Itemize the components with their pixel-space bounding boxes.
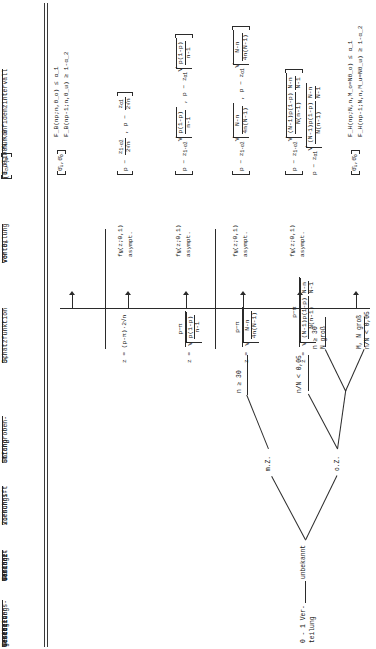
- tree-edge-c3-upper: [325, 349, 346, 391]
- tree-draw-label-oz: o.Z.: [334, 456, 342, 471]
- hdr-line: θu,θ̂o für θ: [2, 130, 3, 179]
- row6-confidence-interval: θ̂u,θ̂o: [352, 150, 359, 175]
- tree-edge-mz-c1: [246, 395, 269, 449]
- row5-distribution-note: asympt.: [300, 231, 307, 257]
- row1-ci-bracket: θ̂u,θ̂o: [58, 150, 65, 175]
- tree-edge-oz-c2: [308, 394, 338, 449]
- header-rule-bottom: [47, 3, 48, 647]
- row3-distribution-fn: fN(z;0,1): [176, 225, 183, 257]
- row2-distribution-note: asympt.: [128, 231, 135, 257]
- row4-confidence-interval: p − z1-α2N-n4n(N-1) , p − zα1N-n4n(N-1): [233, 26, 249, 175]
- row1-ci-condition-1: F_B(np;n,θ_o) ≤ α_1: [54, 66, 61, 137]
- tree-edge-root-variance: [305, 581, 306, 603]
- tree-condition-label-c3-line2: N groß: [320, 326, 328, 349]
- row5-confidence-interval-lower: p − zα1(N-1)p(1-p)N(n-1)N-nN-1: [306, 83, 322, 175]
- arrow-head-row3: [183, 291, 189, 295]
- row4-ci-bracket: p − z1-α2N-n4n(N-1) , p − zα1N-n4n(N-1): [233, 26, 249, 175]
- row1-ci-condition-2: F_B(np-1;n,θ_u) ≥ 1-α_2: [64, 52, 71, 137]
- tree-edge-variance-oz: [305, 475, 337, 540]
- tree-edge-oz-c3: [337, 390, 346, 450]
- row2-ci-bracket: p − z1-α22√n , p − zα12√n: [118, 92, 132, 175]
- row1-confidence-interval: θ̂u,θ̂o: [58, 150, 65, 175]
- row-leader-1: [72, 293, 73, 309]
- tree-edge-variance-mz: [271, 476, 306, 540]
- row3-estimator: z = p−πp(1-p)n-1: [178, 310, 202, 363]
- row5-ci-bracket: p − z1-α2(N-1)p(1-p)N(n-1)N-nN-1: [286, 69, 302, 175]
- row4-estimator: z = p−πN-n4n(N-1): [235, 306, 259, 363]
- rotated-sheet: Verteilungs- gesetz der Grundge- samthei…: [0, 0, 376, 649]
- hdr-line: Dt: [2, 356, 3, 363]
- arrow-head-row2: [125, 291, 131, 295]
- estimator-group-rule-mid: [215, 229, 216, 349]
- row-leader-2: [128, 293, 129, 309]
- column-header-band: Verteilungs- gesetz der Grundge- samthei…: [0, 0, 46, 649]
- row2-estimator: z = (p-π)·2√n: [122, 315, 129, 363]
- row4-distribution-fn: fN(z;0,1): [233, 225, 240, 257]
- estimator-group-rule-top: [105, 229, 106, 349]
- arrow-head-row6: [353, 291, 359, 295]
- tree-root-label-line1: 0 - 1 Ver-: [300, 605, 308, 643]
- header-rule-top: [44, 3, 45, 647]
- row3-ci-bracket: p − z1-α2p(1-p)n-1 , p − zα1p(1-p)n-1: [176, 34, 192, 175]
- row6-ci-condition-1: F_H(np;N,n,M_o=Nθ_o) ≤ α_1: [348, 40, 355, 137]
- row6-ci-bracket: θ̂u,θ̂o: [352, 150, 359, 175]
- tree-draw-label-mz: m.Z.: [265, 456, 273, 471]
- row4-distribution-note: asympt.: [243, 231, 250, 257]
- row5-estimator: z = p−π(N-1)p(1-p)N(n-1)N-nN-1: [292, 276, 316, 363]
- arrow-head-row1: [69, 291, 75, 295]
- row3-confidence-interval: p − z1-α2p(1-p)n-1 , p − zα1p(1-p)n-1: [176, 34, 192, 175]
- hdr-line: samtheit: [2, 550, 3, 581]
- tree-edge-c3-lower: [345, 349, 365, 391]
- row2-distribution-fn: fN(z;0,1): [118, 225, 125, 257]
- row-leader-3: [186, 293, 187, 309]
- row5-confidence-interval-upper: p − z1-α2(N-1)p(1-p)N(n-1)N-nN-1: [286, 69, 302, 175]
- hdr-line: vorschrift: [2, 486, 3, 525]
- row3-distribution-note: asympt.: [186, 231, 193, 257]
- hdr-line: von Dt: [2, 240, 3, 263]
- hdr-line: samtheit: [2, 616, 3, 647]
- row5-distribution-fn: fN(z;0,1): [290, 225, 297, 257]
- tree-condition-label-c4-line2: n/N < 0,05: [364, 311, 372, 349]
- arrow-head-row4: [240, 291, 246, 295]
- tree-variance-label: unbekannt: [300, 545, 308, 579]
- row2-confidence-interval: p − z1-α22√n , p − zα12√n: [118, 92, 132, 175]
- hdr-line: Schätzfunktion: [2, 308, 3, 363]
- tree-condition-label-c1: n ≥ 30: [236, 370, 244, 393]
- tree-condition-label-c4-line1: M, N groß: [356, 315, 364, 349]
- tree-root-label-line2: teilung: [309, 617, 317, 643]
- row6-ci-condition-2: F_H(np-1;N,n,M_u=Nθ_u) ≥ 1-α_2: [358, 26, 365, 137]
- hdr-line: umfang: [2, 439, 3, 463]
- row-leader-6: [356, 293, 357, 309]
- reference-table-page: Verteilungs- gesetz der Grundge- samthei…: [0, 0, 376, 649]
